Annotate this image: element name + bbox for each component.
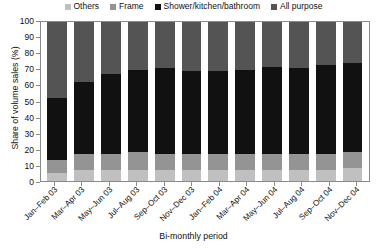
stacked-bar[interactable] [128,22,148,181]
bar-segment [343,63,363,152]
stacked-bar[interactable] [101,22,121,181]
y-axis-tick-label: 80 [25,49,34,58]
bar-segment [316,170,336,181]
stacked-bar[interactable] [289,22,309,181]
y-axis-tick-label: 50 [25,98,34,107]
legend-item[interactable]: Others [65,2,100,11]
bar-segment [208,71,228,154]
legend-swatch-icon [155,4,161,10]
bar-segment [343,152,363,168]
bar-segment [101,74,121,154]
bar-slot [285,22,312,181]
bar-segment [262,67,282,154]
legend-item[interactable]: All purpose [271,2,323,11]
bar-segment [262,22,282,67]
y-axis-tick-label: 40 [25,114,34,123]
legend-swatch-icon [65,4,71,10]
bar-segment [47,98,67,160]
bar-slot [259,22,286,181]
y-axis: Share of volume sales (%) 10090807060504… [0,0,40,203]
bar-segment [289,154,309,170]
stacked-bar[interactable] [343,22,363,181]
y-axis-tick-label: 100 [20,17,34,26]
stacked-bar[interactable] [47,22,67,181]
stacked-bar[interactable] [235,22,255,181]
bar-segment [208,154,228,170]
legend-label: Others [74,2,100,11]
plot-area [40,21,370,182]
bar-segment [74,82,94,154]
bar-segment [262,170,282,181]
legend-label: All purpose [280,2,323,11]
bar-segment [47,22,67,98]
bar-segment [235,70,255,154]
bar-segment [128,22,148,70]
bar-segment [47,160,67,173]
legend-label: Shower/kitchen/bathroom [164,2,260,11]
bar-segment [289,68,309,154]
bar-segment [343,168,363,181]
y-axis-tick-label: 0 [29,178,34,187]
y-axis-tick-label: 10 [25,162,34,171]
bar-segment [155,22,175,68]
bar-segment [74,22,94,82]
bar-segment [316,22,336,65]
y-axis-tick-label: 30 [25,130,34,139]
bar-segment [262,154,282,170]
legend-label: Frame [119,2,144,11]
bar-segment [155,68,175,154]
bar-segment [155,170,175,181]
bar-segment [316,154,336,170]
bar-slot [232,22,259,181]
bar-segment [182,170,202,181]
stacked-bar[interactable] [208,22,228,181]
bar-slot [312,22,339,181]
bar-slot [178,22,205,181]
bar-segment [47,173,67,181]
bar-segment [74,154,94,170]
bar-segment [235,154,255,170]
y-axis-tick-label: 90 [25,33,34,42]
bar-segment [289,170,309,181]
stacked-bar[interactable] [182,22,202,181]
bar-segment [101,154,121,170]
stacked-bar[interactable] [74,22,94,181]
bar-segment [128,170,148,181]
chart-legend: OthersFrameShower/kitchen/bathroomAll pu… [0,2,387,11]
bar-slot [205,22,232,181]
bar-slot [44,22,71,181]
bar-slot [339,22,366,181]
bar-segment [182,154,202,170]
bar-segment [343,22,363,63]
legend-item[interactable]: Frame [110,2,144,11]
legend-item[interactable]: Shower/kitchen/bathroom [155,2,260,11]
bar-segment [101,22,121,74]
y-axis-tick-label: 20 [25,146,34,155]
stacked-bar-chart: OthersFrameShower/kitchen/bathroomAll pu… [0,0,387,248]
bar-segment [101,170,121,181]
bar-segment [235,170,255,181]
stacked-bar[interactable] [262,22,282,181]
stacked-bar[interactable] [316,22,336,181]
bar-slot [71,22,98,181]
bar-segment [208,22,228,71]
bar-slot [98,22,125,181]
bar-slot [151,22,178,181]
bar-group [41,22,369,181]
x-axis-title: Bi-monthly period [0,231,387,241]
bar-segment [289,22,309,68]
stacked-bar[interactable] [155,22,175,181]
y-axis-tick-label: 70 [25,65,34,74]
bar-segment [182,22,202,71]
bar-segment [316,65,336,154]
y-axis-tick-label: 60 [25,81,34,90]
bar-segment [182,71,202,154]
legend-swatch-icon [271,4,277,10]
legend-swatch-icon [110,4,116,10]
bar-slot [124,22,151,181]
y-axis-title: Share of volume sales (%) [10,13,20,183]
bar-segment [208,170,228,181]
bar-segment [155,154,175,170]
bar-segment [128,152,148,169]
bar-segment [74,170,94,181]
